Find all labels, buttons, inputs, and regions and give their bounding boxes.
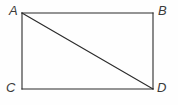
vertex-label-c: C: [6, 81, 15, 94]
rectangle-diagram-svg: [0, 0, 178, 105]
vertex-label-b: B: [158, 4, 167, 17]
vertex-label-d: D: [157, 81, 166, 94]
vertex-label-a: A: [9, 4, 18, 17]
diagonal-AD-line: [22, 13, 153, 89]
geometry-figure: A B C D: [0, 0, 178, 105]
